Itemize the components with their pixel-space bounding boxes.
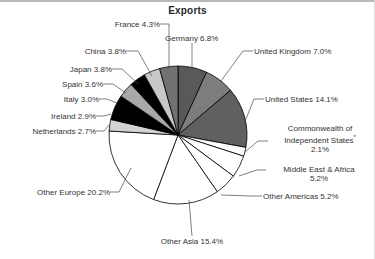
leader-line-united-states (244, 99, 264, 124)
label-middle-east-africa: Middle East & Africa 5.2% (266, 165, 372, 183)
label-cis-footnote-marker: * (354, 134, 356, 140)
leader-line-middle-east-africa (239, 170, 266, 176)
leader-line-other-americas (221, 195, 262, 196)
label-ireland: Ireland 2.9% (6, 112, 96, 121)
label-other-europe: Other Europe 20.2% (6, 188, 110, 197)
leader-line-other-asia (189, 200, 192, 236)
label-china: China 3.8% (26, 47, 126, 56)
leader-line-china (126, 51, 152, 76)
label-united-kingdom: United Kingdom 7.0% (254, 47, 331, 56)
label-united-states: United States 14.1% (265, 95, 338, 104)
leader-line-italy (99, 99, 117, 103)
label-france: France 4.3% (44, 20, 160, 29)
label-middle-east-africa-line1: Middle East & Africa (283, 165, 355, 174)
pie-slices (109, 66, 247, 204)
label-japan: Japan 3.8% (16, 65, 112, 74)
label-spain: Spain 3.6% (10, 80, 103, 89)
label-cis-line2: Independent States (284, 136, 353, 145)
leader-line-netherlands (96, 125, 109, 131)
pie-chart-figure: Exports (0, 0, 375, 259)
leader-line-france (160, 24, 169, 69)
label-other-americas: Other Americas 5.2% (263, 192, 339, 201)
label-germany: Germany 6.8% (165, 34, 218, 43)
leader-line-spain (103, 84, 126, 93)
label-cis-value: 2.1% (311, 145, 329, 154)
leader-line-ireland (96, 114, 111, 116)
leader-line-united-kingdom (221, 51, 253, 81)
label-other-asia: Other Asia 15.4% (147, 237, 237, 246)
label-netherlands: Netherlands 2.7% (2, 127, 96, 136)
label-middle-east-africa-value: 5.2% (310, 174, 328, 183)
label-italy: Italy 3.0% (10, 95, 99, 104)
label-cis-line1: Commonwealth of (288, 124, 352, 133)
leader-line-cis (245, 141, 268, 152)
label-commonwealth-independent-states: Commonwealth of Independent States* 2.1% (268, 124, 372, 154)
